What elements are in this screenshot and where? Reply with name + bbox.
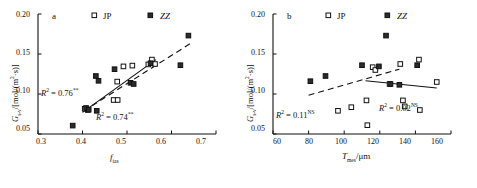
panel-b-y-unit-sup: 2 bbox=[244, 76, 250, 79]
data-point-ZZ bbox=[94, 74, 99, 79]
panel-b-xtick-5: 160 bbox=[431, 138, 443, 146]
data-point-JP bbox=[364, 98, 369, 103]
data-point-JP bbox=[121, 64, 126, 69]
data-point-ZZ bbox=[70, 123, 75, 128]
data-point-JP bbox=[434, 80, 439, 85]
panel-b-x-axis-title: Tmes/μm bbox=[342, 152, 370, 163]
data-point-ZZ bbox=[397, 83, 402, 88]
data-point-ZZ bbox=[415, 63, 420, 68]
panel-a-xtick-0: 0.3 bbox=[36, 138, 46, 146]
panel-a-xtick-4: 0.7 bbox=[196, 138, 206, 146]
data-point-ZZ bbox=[186, 33, 191, 38]
panel-a-r2-upper-eq: = 0.76 bbox=[49, 88, 73, 98]
data-point-JP bbox=[418, 108, 423, 113]
data-point-ZZ bbox=[148, 61, 153, 66]
data-point-JP bbox=[417, 57, 422, 62]
panel-b-x-unit: /μm bbox=[356, 151, 370, 161]
legend-b-label-jp: JP bbox=[337, 12, 346, 21]
panel-a-x-subscript: ias bbox=[113, 158, 119, 164]
data-point-ZZ bbox=[384, 33, 389, 38]
panel-a-xtick-1: 0.4 bbox=[76, 138, 86, 146]
legend-marker-zz bbox=[148, 13, 153, 18]
figure-root: a JP ZZ 0.20 0.15 0.10 0.05 0.3 0.4 0.5 … bbox=[0, 0, 477, 188]
panel-a-ytick-1: 0.15 bbox=[16, 49, 30, 57]
panel-b-y-subscript: s-v bbox=[251, 109, 257, 116]
data-point-JP bbox=[115, 98, 120, 103]
panel-a-y-axis-title: Gs-v/[mol/(m2·s)] bbox=[10, 64, 22, 122]
panel-a-ytick-3: 0.05 bbox=[16, 125, 30, 133]
data-point-ZZ bbox=[388, 82, 393, 87]
data-point-ZZ bbox=[377, 64, 382, 69]
panel-b-letter: b bbox=[287, 12, 292, 21]
legend-a-label-zz: ZZ bbox=[160, 12, 170, 21]
data-point-ZZ bbox=[323, 74, 328, 79]
data-point-JP bbox=[365, 123, 370, 128]
panel-b-xtick-4: 140 bbox=[399, 138, 411, 146]
panel-a-r2-lower: R2 = 0.74** bbox=[96, 112, 133, 121]
panel-b-x-subscript: mes bbox=[347, 157, 356, 163]
legend-marker-jp bbox=[326, 13, 331, 18]
data-point-ZZ bbox=[308, 79, 313, 84]
panel-a-r2-upper-stars: ** bbox=[73, 87, 79, 93]
panel-b-y-symbol: G bbox=[245, 116, 255, 122]
legend-b-label-zz: ZZ bbox=[397, 12, 407, 21]
panel-a: a JP ZZ 0.20 0.15 0.10 0.05 0.3 0.4 0.5 … bbox=[0, 0, 238, 188]
data-point-JP bbox=[153, 62, 158, 67]
panel-a-y-symbol: G bbox=[10, 116, 20, 122]
panel-b-xtick-0: 60 bbox=[273, 138, 281, 146]
panel-b-xtick-1: 80 bbox=[305, 138, 313, 146]
panel-b-r2-right-eq: = 0.02 bbox=[387, 103, 411, 113]
panel-b: b JP ZZ 0.20 0.15 0.10 0.05 60 80 100 12… bbox=[239, 0, 477, 188]
panel-a-y-unit-end: ·s)] bbox=[10, 64, 20, 76]
data-point-JP bbox=[398, 62, 403, 67]
panel-b-y-axis-title: Gs-v/[mol/(m2·s)] bbox=[245, 64, 257, 122]
panel-b-r2-right-stars: NS bbox=[411, 102, 418, 108]
data-point-ZZ bbox=[131, 82, 136, 87]
legend-marker-jp bbox=[92, 13, 97, 18]
panel-a-letter: a bbox=[52, 12, 56, 21]
panel-a-r2-lower-eq: = 0.74 bbox=[104, 112, 128, 122]
legend-a-label-jp: JP bbox=[103, 12, 112, 21]
panel-a-plot bbox=[0, 0, 238, 188]
data-point-ZZ bbox=[178, 63, 183, 68]
legend-marker-zz bbox=[385, 13, 390, 18]
data-point-JP bbox=[349, 105, 354, 110]
panel-a-y-unit-sup: 2 bbox=[9, 76, 15, 79]
panel-b-r2-right: R2 = 0.02NS bbox=[379, 103, 418, 112]
panel-a-ytick-0: 0.20 bbox=[16, 11, 30, 19]
data-point-ZZ bbox=[96, 79, 101, 84]
data-point-ZZ bbox=[112, 67, 117, 72]
panel-b-y-unit-end: ·s)] bbox=[245, 64, 255, 76]
panel-a-r2-upper: R2 = 0.76** bbox=[41, 88, 78, 97]
panel-b-xtick-2: 100 bbox=[335, 138, 347, 146]
data-point-JP bbox=[130, 63, 135, 68]
panel-b-ytick-1: 0.15 bbox=[251, 49, 265, 57]
panel-a-y-unit: /[mol/(m bbox=[10, 79, 20, 109]
data-point-JP bbox=[336, 109, 341, 114]
panel-b-r2-left: R2 = 0.11NS bbox=[276, 110, 315, 119]
panel-a-r2-lower-stars: ** bbox=[128, 111, 134, 117]
panel-b-ytick-0: 0.20 bbox=[251, 11, 265, 19]
panel-b-r2-left-stars: NS bbox=[308, 109, 315, 115]
panel-a-xtick-2: 0.5 bbox=[116, 138, 126, 146]
data-point-ZZ bbox=[360, 63, 365, 68]
panel-b-xtick-3: 120 bbox=[367, 138, 379, 146]
panel-a-y-subscript: s-v bbox=[16, 109, 22, 116]
fit-line-ZZ-fit bbox=[83, 43, 191, 111]
panel-a-x-axis-title: fias bbox=[110, 153, 119, 164]
panel-b-y-unit: /[mol/(m bbox=[245, 79, 255, 109]
panel-a-xtick-3: 0.6 bbox=[156, 138, 166, 146]
panel-b-r2-left-eq: = 0.11 bbox=[284, 110, 308, 120]
panel-b-ytick-3: 0.05 bbox=[251, 125, 265, 133]
data-point-JP bbox=[115, 79, 120, 84]
fit-line-ZZ-fit bbox=[309, 69, 400, 95]
data-point-ZZ bbox=[86, 107, 91, 112]
